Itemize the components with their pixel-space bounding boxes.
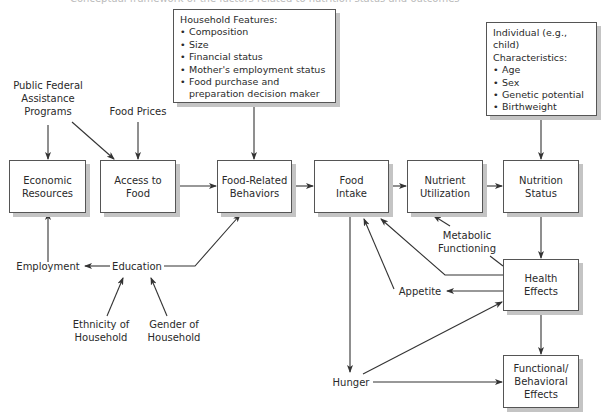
- nutrition-status-box: Nutrition Status: [503, 160, 579, 213]
- household-features-list: Composition Size Financial status Mother…: [180, 26, 329, 100]
- health-effects-box: Health Effects: [503, 259, 579, 311]
- food-intake-box: Food Intake: [314, 160, 389, 213]
- individual-characteristics-list: Age Sex Genetic potential Birthweight: [493, 64, 590, 114]
- appetite-label: Appetite: [395, 285, 445, 298]
- nutrient-utilization-box: Nutrient Utilization: [407, 160, 483, 213]
- economic-resources-box: Economic Resources: [9, 160, 86, 213]
- food-prices-label: Food Prices: [108, 105, 168, 118]
- list-item: Birthweight: [493, 101, 590, 113]
- functional-behavioral-effects-box: Functional/ Behavioral Effects: [503, 355, 579, 408]
- access-to-food-box: Access to Food: [100, 160, 176, 213]
- metabolic-functioning-label: Metabolic Functioning: [434, 229, 500, 255]
- list-item: Food purchase and preparation decision m…: [180, 76, 329, 101]
- ethnicity-label: Ethnicity of Household: [70, 318, 132, 344]
- public-federal-assistance-label: Public Federal Assistance Programs: [12, 79, 84, 118]
- list-item: Size: [180, 39, 329, 51]
- list-item: Age: [493, 64, 590, 76]
- food-related-behaviors-box: Food-Related Behaviors: [217, 160, 292, 213]
- list-item: Mother's employment status: [180, 64, 329, 76]
- list-item: Sex: [493, 77, 590, 89]
- household-features-title: Household Features:: [180, 14, 329, 26]
- household-features-box: Household Features: Composition Size Fin…: [173, 9, 336, 103]
- list-item: Genetic potential: [493, 89, 590, 101]
- gender-label: Gender of Household: [143, 318, 205, 344]
- individual-characteristics-box: Individual (e.g., child) Characteristics…: [486, 22, 597, 116]
- list-item: Composition: [180, 26, 329, 38]
- individual-characteristics-title: Individual (e.g., child) Characteristics…: [493, 27, 590, 64]
- list-item: Financial status: [180, 51, 329, 63]
- education-label: Education: [110, 260, 164, 273]
- employment-label: Employment: [16, 260, 80, 273]
- hunger-label: Hunger: [330, 376, 372, 389]
